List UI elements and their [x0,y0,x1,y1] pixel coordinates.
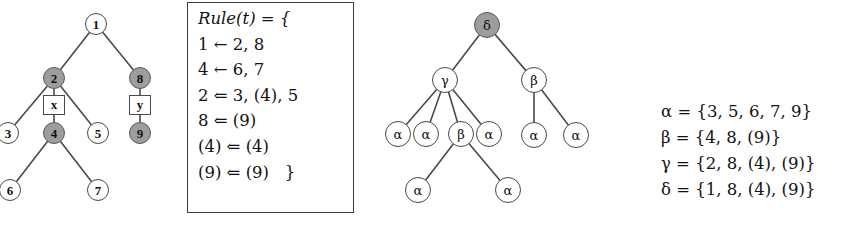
greek-node-g-g: γ [432,67,458,93]
num-box-y-label: y [137,97,144,113]
greek-node-g-g-label: γ [441,74,449,87]
num-node-n1: 1 [85,13,107,35]
num-node-n2: 2 [43,67,65,89]
legend-text: α = {3, 5, 6, 7, 9}β = {4, 8, (9)}γ = {2… [661,99,815,203]
num-edge-n1-n8 [103,33,133,70]
greek-node-g-a4-label: α [530,129,539,142]
greek-node-g-a7-label: α [504,184,513,197]
num-node-n4: 4 [43,122,65,144]
num-node-n3: 3 [0,122,19,144]
figure-canvas: 128345967 xy Rule(t) = {1 ← 2, 84 ← 6, 7… [0,0,848,230]
greek-node-g-a6-label: α [414,184,423,197]
greek-node-g-a7: α [495,177,521,203]
greek-node-g-a3-label: α [485,128,494,141]
rule-line-2: 4 ← 6, 7 [198,57,348,83]
num-node-n2-label: 2 [51,72,58,85]
rule-line-4: 8 ⇐ (9) [198,108,348,134]
num-node-n8-label: 8 [137,72,144,85]
num-node-n4-label: 4 [51,127,58,140]
greek-node-g-b1: β [521,67,547,93]
greek-edge-g-g-g-a3 [453,90,481,124]
rule-line-3: 2 ⇐ 3, (4), 5 [198,83,348,109]
num-node-n5: 5 [87,122,109,144]
num-edge-n4-n7 [61,142,92,182]
greek-node-g-a4: α [521,122,547,148]
num-node-n9-label: 9 [137,127,144,140]
rule-line-0: Rule(t) = { [198,6,348,32]
greek-node-g-a1: α [385,121,411,147]
greek-node-g-a5-label: α [572,129,581,142]
num-node-n5-label: 5 [95,127,102,140]
legend-line-2: γ = {2, 8, (4), (9)} [661,151,815,177]
num-node-n6: 6 [0,179,21,201]
num-node-n1-label: 1 [93,18,100,31]
greek-edge-g-g-g-b2 [449,92,458,121]
num-node-n3-label: 3 [5,127,12,140]
greek-edge-g-d-g-g [453,35,479,69]
greek-node-g-b1-label: β [530,74,538,87]
greek-node-g-a2-label: α [422,128,431,141]
greek-node-g-d-label: δ [483,19,491,32]
rule-line-6: (9) ⇐ (9) } [198,160,348,186]
greek-edge-g-g-g-a1 [407,90,437,124]
num-edge-n1-n2 [61,33,89,70]
num-node-n7-label: 7 [95,184,102,197]
num-box-y: y [129,95,151,115]
legend-line-1: β = {4, 8, (9)} [661,125,815,151]
greek-node-g-a2: α [413,121,439,147]
legend-line-0: α = {3, 5, 6, 7, 9} [661,99,815,125]
num-node-n8: 8 [129,67,151,89]
greek-edge-g-b2-g-a6 [426,144,453,179]
legend-line-3: δ = {1, 8, (4), (9)} [661,177,815,203]
greek-edge-g-b1-g-a5 [542,90,568,124]
num-node-n7: 7 [87,179,109,201]
greek-node-g-a5: α [563,122,589,148]
rule-box-text: Rule(t) = {1 ← 2, 84 ← 6, 72 ⇐ 3, (4), 5… [198,6,348,185]
num-edge-n4-n6 [17,142,48,182]
greek-node-g-a1-label: α [394,128,403,141]
num-node-n9: 9 [129,122,151,144]
num-node-n6-label: 6 [7,184,14,197]
greek-node-g-a3: α [476,121,502,147]
greek-node-g-b2-label: β [457,128,465,141]
greek-edge-g-g-g-a2 [430,92,440,121]
num-box-x: x [43,95,65,115]
greek-edge-g-b2-g-a7 [469,144,499,180]
greek-node-g-d: δ [474,12,500,38]
num-edge-n2-n5 [61,87,91,125]
greek-edge-g-d-g-b1 [495,35,525,70]
rule-line-5: (4) ⇐ (4) [198,134,348,160]
num-box-x-label: x [51,97,58,113]
rule-line-1: 1 ← 2, 8 [198,32,348,58]
greek-node-g-a6: α [405,177,431,203]
greek-node-g-b2: β [448,121,474,147]
